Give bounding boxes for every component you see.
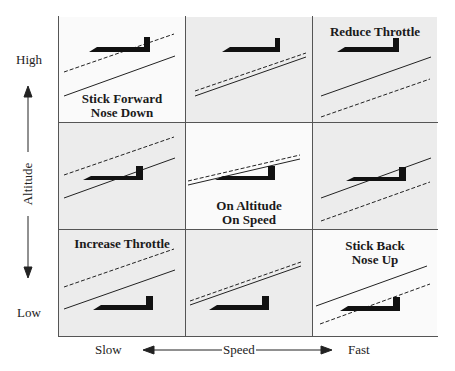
arrow-down-icon	[24, 267, 32, 278]
axis-fast-label: Fast	[348, 342, 370, 358]
actual-path-line	[64, 56, 175, 96]
label-line: Stick Back	[313, 239, 437, 253]
axis-slow-label: Slow	[95, 342, 122, 358]
arrow-up-icon	[24, 86, 32, 97]
aircraft-icon	[340, 297, 400, 311]
label-increase-throttle: Increase Throttle	[59, 237, 185, 251]
label-line: Reduce Throttle	[313, 25, 437, 39]
label-on-altitude-on-speed: On Altitude On Speed	[186, 199, 312, 227]
label-line: Stick Forward	[59, 92, 185, 106]
aircraft-icon	[209, 296, 269, 310]
label-stick-back: Stick Back Nose Up	[313, 239, 437, 267]
label-line: On Speed	[186, 213, 312, 227]
axis-altitude-label: Altitude	[20, 152, 36, 216]
label-line: Nose Up	[313, 253, 437, 267]
label-stick-forward: Stick Forward Nose Down	[59, 92, 185, 120]
arrow-left-icon	[143, 346, 154, 354]
label-line: On Altitude	[186, 199, 312, 213]
label-reduce-throttle: Reduce Throttle	[313, 25, 437, 39]
label-line: Increase Throttle	[59, 237, 185, 251]
axis-low-label: Low	[17, 305, 41, 321]
axis-high-label: High	[16, 52, 42, 68]
aircraft-icon	[89, 37, 150, 52]
aircraft-icon	[222, 38, 280, 52]
aircraft-icon	[337, 38, 399, 52]
diagram-drawing	[0, 0, 455, 371]
arrow-right-icon	[321, 346, 332, 354]
desired-path-line	[64, 34, 174, 72]
axis-speed-label: Speed	[222, 342, 256, 358]
label-line: Nose Down	[59, 106, 185, 120]
aircraft-icon	[93, 296, 153, 310]
aircraft-icon	[346, 167, 406, 181]
